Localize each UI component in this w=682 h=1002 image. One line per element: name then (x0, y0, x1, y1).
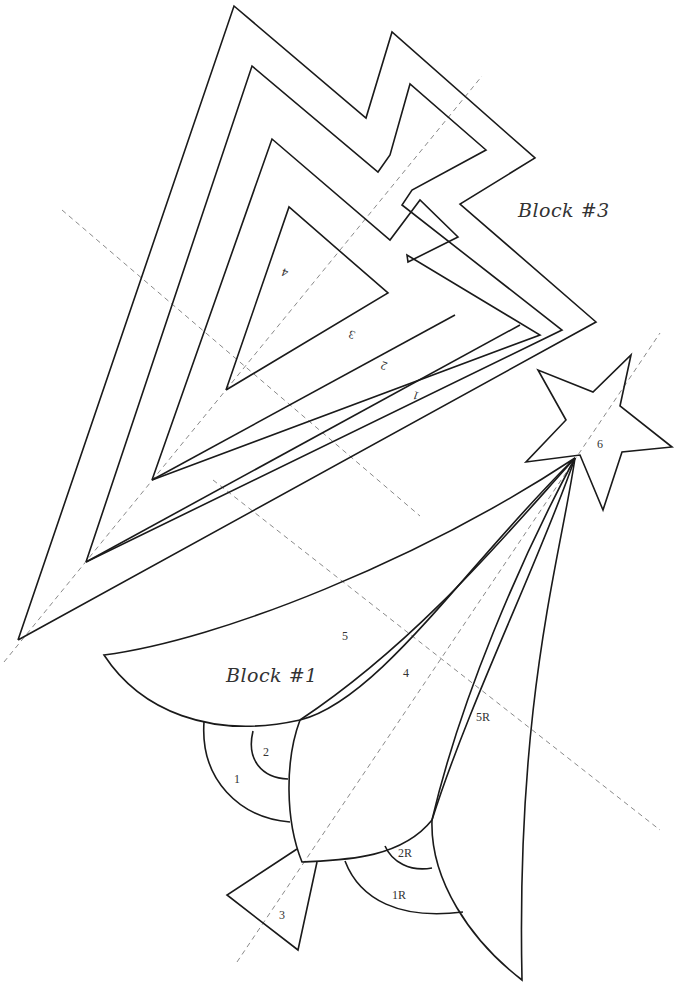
guide-line-block1-axis (237, 333, 660, 962)
block-3-outlines (18, 6, 596, 640)
block1-piece-6: 6 (597, 437, 603, 451)
block-1-label: Block #1 (225, 664, 318, 686)
block1-piece-4: 4 (403, 666, 409, 680)
block1-piece-5R: 5R (476, 710, 490, 724)
block1-piece-1: 1 (234, 772, 240, 786)
block-3-numbers: 4 3 2 1 (280, 265, 421, 403)
block1-piece-5-outline (104, 458, 575, 726)
block3-piece-2: 2 (379, 358, 389, 373)
block1-piece-5R-outline (432, 458, 575, 980)
block1-piece-4-outline (289, 458, 575, 862)
block3-piece-4: 4 (280, 265, 290, 280)
pattern-canvas: 4 3 2 1 Block #3 6 Block #1 5 4 5R 2 1 2… (0, 0, 682, 1002)
block3-outline-outer (18, 6, 596, 640)
block3-outline-2 (86, 66, 562, 562)
block3-outline-inner (226, 207, 388, 390)
block1-piece-2R: 2R (398, 846, 412, 860)
block-3-label: Block #3 (517, 199, 610, 221)
block3-band-line-b (86, 325, 520, 562)
block1-piece-1-outline (204, 722, 290, 822)
block1-piece-5: 5 (342, 629, 348, 643)
block1-piece-3: 3 (279, 908, 285, 922)
block1-piece-1R: 1R (392, 888, 406, 902)
block-1-outlines (104, 458, 575, 980)
block1-piece-2: 2 (263, 745, 269, 759)
guide-line-block3-axis (4, 76, 482, 662)
block3-piece-3: 3 (347, 327, 357, 342)
block1-piece-3-outline (227, 849, 317, 950)
block3-piece-1: 1 (411, 388, 421, 403)
block1-piece-2-outline (251, 731, 288, 779)
